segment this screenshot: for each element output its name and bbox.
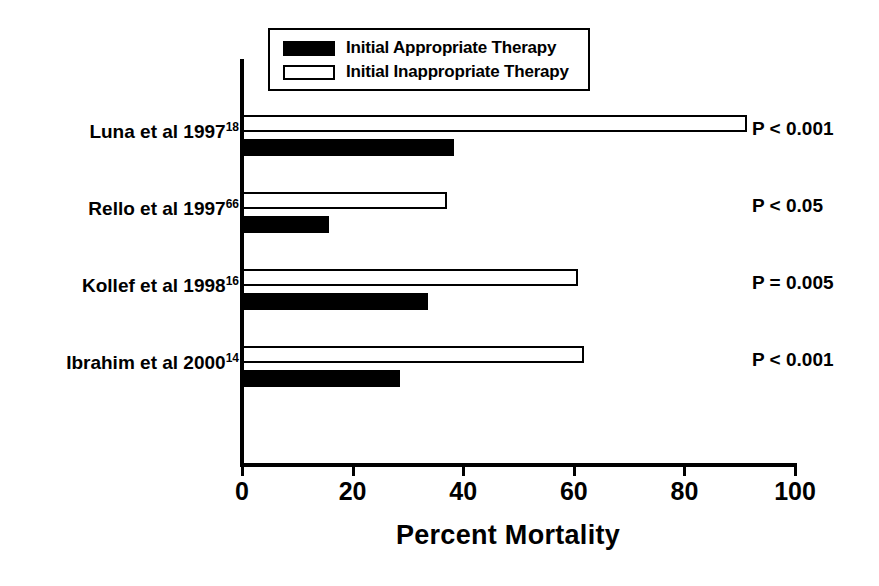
p-value-annotation: P < 0.05	[752, 195, 823, 217]
category-label: Kollef et al 199816	[0, 275, 239, 297]
legend-swatch-hollow-icon	[283, 65, 335, 80]
bar-appropriate-therapy	[242, 293, 428, 310]
legend-swatch-filled-icon	[283, 41, 335, 56]
legend-item-appropriate: Initial Appropriate Therapy	[283, 37, 556, 59]
category-reference-superscript: 66	[226, 197, 239, 211]
p-value-annotation: P < 0.001	[752, 118, 834, 140]
category-reference-superscript: 16	[226, 274, 239, 288]
bar-appropriate-therapy	[242, 370, 400, 387]
x-tick-mark	[352, 467, 355, 476]
category-reference-superscript: 18	[226, 120, 239, 134]
x-axis-title: Percent Mortality	[268, 520, 748, 551]
p-value-annotation: P < 0.001	[752, 349, 834, 371]
chart-figure: Initial Appropriate Therapy Initial Inap…	[0, 0, 879, 586]
category-label-text: Kollef et al 1998	[82, 275, 226, 296]
legend-item-inappropriate: Initial Inappropriate Therapy	[283, 61, 569, 83]
x-tick-label: 100	[760, 477, 830, 506]
x-tick-label: 80	[649, 477, 719, 506]
x-tick-label: 20	[318, 477, 388, 506]
bar-inappropriate-therapy	[242, 346, 584, 363]
chart-legend: Initial Appropriate Therapy Initial Inap…	[268, 28, 590, 91]
category-label-text: Luna et al 1997	[89, 121, 225, 142]
category-reference-superscript: 14	[226, 351, 239, 365]
bar-appropriate-therapy	[242, 139, 454, 156]
x-axis-line	[240, 463, 797, 467]
x-tick-mark	[573, 467, 576, 476]
category-label: Rello et al 199766	[0, 198, 239, 220]
category-label: Luna et al 199718	[0, 121, 239, 143]
x-tick-label: 60	[539, 477, 609, 506]
category-label-text: Rello et al 1997	[88, 198, 225, 219]
p-value-annotation: P = 0.005	[752, 272, 834, 294]
category-label: Ibrahim et al 200014	[0, 352, 239, 374]
x-tick-mark	[794, 467, 797, 476]
x-tick-mark	[462, 467, 465, 476]
bar-inappropriate-therapy	[242, 115, 747, 132]
x-tick-label: 40	[428, 477, 498, 506]
bar-appropriate-therapy	[242, 216, 329, 233]
legend-label-appropriate: Initial Appropriate Therapy	[346, 38, 556, 58]
x-tick-mark	[241, 467, 244, 476]
legend-label-inappropriate: Initial Inappropriate Therapy	[346, 62, 569, 82]
category-label-text: Ibrahim et al 2000	[66, 352, 225, 373]
bar-inappropriate-therapy	[242, 192, 447, 209]
bar-inappropriate-therapy	[242, 269, 578, 286]
x-tick-mark	[683, 467, 686, 476]
x-tick-label: 0	[207, 477, 277, 506]
